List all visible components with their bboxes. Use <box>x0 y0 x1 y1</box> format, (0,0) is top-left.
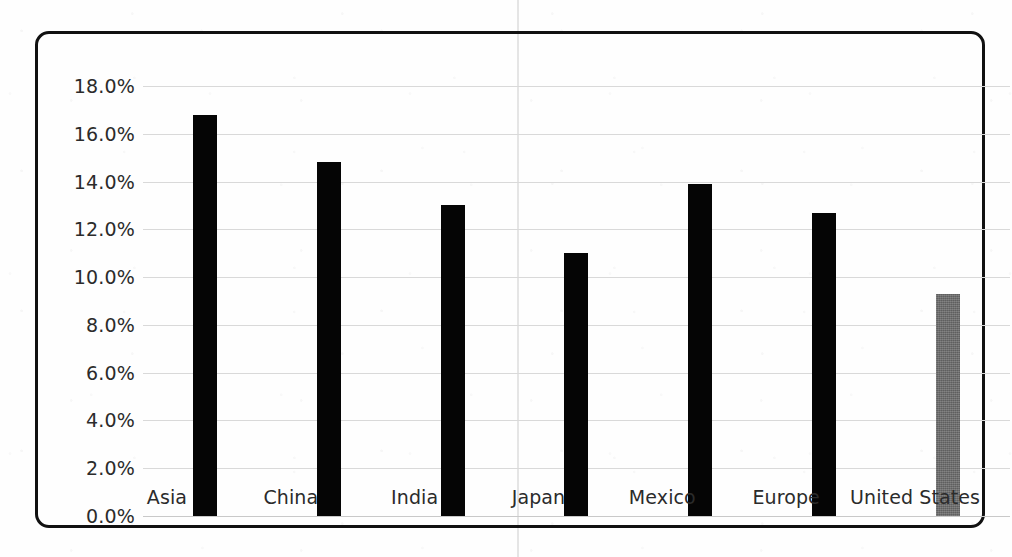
bar-slot <box>143 86 267 516</box>
bar-slot <box>391 86 515 516</box>
y-tick-label: 6.0% <box>86 362 135 384</box>
bar-slot <box>515 86 639 516</box>
x-tick-label-europe: Europe <box>726 486 846 508</box>
y-tick-label: 12.0% <box>74 218 135 240</box>
bar-slot <box>762 86 886 516</box>
x-tick-label-united-states: United States <box>850 486 970 508</box>
bar-europe[interactable] <box>812 213 836 516</box>
x-tick-label-mexico: Mexico <box>602 486 722 508</box>
bar-united-states[interactable] <box>936 294 960 516</box>
bar-india[interactable] <box>441 205 465 516</box>
plot-area: 18.0%16.0%14.0%12.0%10.0%8.0%6.0%4.0%2.0… <box>143 86 1010 516</box>
x-axis-category-labels: AsiaChinaIndiaJapanMexicoEuropeUnited St… <box>105 486 972 520</box>
bar-series <box>143 86 1010 516</box>
x-tick-label-asia: Asia <box>107 486 227 508</box>
bar-mexico[interactable] <box>688 184 712 516</box>
x-tick-label-japan: Japan <box>479 486 599 508</box>
y-tick-label: 8.0% <box>86 314 135 336</box>
chart-frame: 18.0%16.0%14.0%12.0%10.0%8.0%6.0%4.0%2.0… <box>35 31 985 528</box>
bar-slot <box>886 86 1010 516</box>
x-tick-label-india: India <box>355 486 475 508</box>
y-tick-label: 14.0% <box>74 171 135 193</box>
bar-asia[interactable] <box>193 115 217 516</box>
y-tick-label: 4.0% <box>86 409 135 431</box>
bar-japan[interactable] <box>564 253 588 516</box>
bar-slot <box>267 86 391 516</box>
y-tick-label: 10.0% <box>74 266 135 288</box>
bar-china[interactable] <box>317 162 341 516</box>
bar-slot <box>638 86 762 516</box>
y-tick-label: 2.0% <box>86 457 135 479</box>
x-tick-label-china: China <box>231 486 351 508</box>
y-tick-label: 18.0% <box>74 75 135 97</box>
y-tick-label: 16.0% <box>74 123 135 145</box>
